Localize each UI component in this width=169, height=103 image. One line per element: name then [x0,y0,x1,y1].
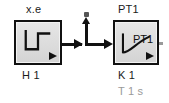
pt1-block[interactable]: PT1 [113,20,159,65]
probe-arrowhead-icon [82,17,90,24]
wire-arrowhead-right-icon [104,39,113,49]
pt1-inner-label: PT1 [133,34,153,45]
source-block[interactable] [14,20,62,65]
source-block-top-label: x.e [26,4,41,15]
pt1-output-port[interactable] [159,42,163,45]
probe-marker-icon[interactable] [84,12,89,17]
wire-arrowhead-left-icon [74,39,83,49]
source-block-name-label: H 1 [22,70,40,81]
pt1-output-arrow-icon [146,52,154,60]
pt1-block-top-label: PT1 [118,4,139,15]
pt1-block-face: PT1 [116,23,156,62]
pt1-block-param-label: T 1 s [118,86,143,97]
source-output-arrow-icon [49,52,57,60]
source-block-face [17,23,59,62]
probe-branch-wire[interactable] [85,22,88,44]
pt1-block-name-label: K 1 [118,70,135,81]
block-diagram-canvas: x.e H 1 PT1 PT1 K 1 T 1 s [0,0,169,103]
